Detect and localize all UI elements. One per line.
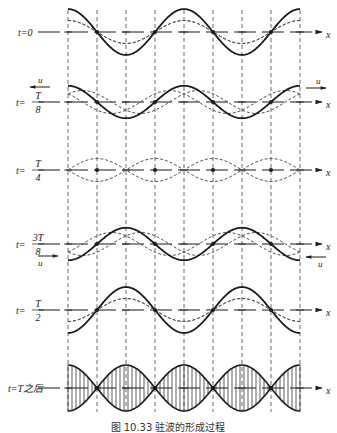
node-point <box>211 308 215 312</box>
x-axis-label: x <box>325 307 331 318</box>
time-label-denominator: 8 <box>36 246 41 257</box>
node-point <box>153 242 157 246</box>
row-t5: t=T之后x <box>8 365 331 411</box>
velocity-label: u <box>318 259 323 269</box>
node-point <box>153 308 157 312</box>
node-point <box>153 168 157 172</box>
time-label-denominator: 4 <box>36 172 41 183</box>
node-point <box>95 30 99 34</box>
row-t4: t=T2x <box>16 287 331 333</box>
time-label-numerator: T <box>35 298 42 309</box>
row-t0: t=0x <box>18 9 331 55</box>
node-point <box>95 386 99 390</box>
row-t2: t=T4x <box>16 158 331 183</box>
node-point <box>269 386 273 390</box>
time-label-prefix: t= <box>16 165 26 176</box>
node-point <box>269 100 273 104</box>
node-point <box>269 168 273 172</box>
node-point <box>211 30 215 34</box>
velocity-label: u <box>38 258 43 268</box>
time-label-numerator: 3T <box>32 232 45 243</box>
x-axis-label: x <box>325 241 331 252</box>
node-point <box>211 386 215 390</box>
time-label-denominator: 2 <box>36 312 41 323</box>
node-point <box>153 30 157 34</box>
node-point <box>269 308 273 312</box>
figure-caption: 图 10.33 驻波的形成过程 <box>111 421 226 433</box>
node-point <box>211 100 215 104</box>
velocity-label: u <box>38 75 43 85</box>
node-point <box>95 168 99 172</box>
time-label-prefix: t= <box>16 97 26 108</box>
time-label-numerator: T <box>35 158 42 169</box>
time-label: t=0 <box>18 27 33 38</box>
node-point <box>153 100 157 104</box>
time-label-numerator: T <box>35 90 42 101</box>
standing-wave-diagram: t=0xt=T8xuut=T4xt=3T8xuut=T2xt=T之后x 图 10… <box>0 0 337 433</box>
node-antinode-guides <box>68 10 300 412</box>
velocity-label: u <box>316 76 321 86</box>
node-point <box>269 30 273 34</box>
node-point <box>95 242 99 246</box>
node-point <box>211 168 215 172</box>
time-label-prefix: t= <box>16 239 26 250</box>
x-axis-label: x <box>325 385 331 396</box>
x-axis-label: x <box>325 99 331 110</box>
x-axis-label: x <box>325 167 331 178</box>
row-t1: t=T8xuu <box>16 75 331 118</box>
time-label-denominator: 8 <box>36 104 41 115</box>
time-label-prefix: t= <box>16 305 26 316</box>
node-point <box>211 242 215 246</box>
node-point <box>153 386 157 390</box>
row-t3: t=3T8xuu <box>16 228 331 269</box>
x-axis-label: x <box>325 29 331 40</box>
node-point <box>269 242 273 246</box>
node-point <box>95 100 99 104</box>
node-point <box>95 308 99 312</box>
